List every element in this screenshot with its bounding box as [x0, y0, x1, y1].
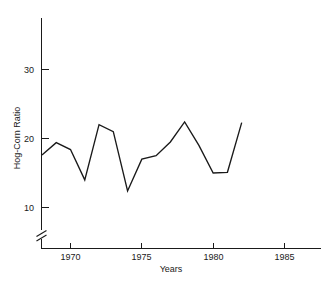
line-chart: 30 20 10 Hog-Corn Ratio 1970 1975 1980 1… [0, 0, 331, 285]
chart-container: 30 20 10 Hog-Corn Ratio 1970 1975 1980 1… [0, 0, 331, 285]
y-tick-label-10: 10 [24, 203, 34, 213]
x-tick-label-1985: 1985 [274, 252, 294, 262]
y-axis-title: Hog-Corn Ratio [12, 107, 22, 170]
x-tick-label-1975: 1975 [131, 252, 151, 262]
x-axis-title: Years [160, 264, 183, 274]
chart-background [0, 0, 331, 285]
y-tick-label-20: 20 [24, 134, 34, 144]
y-tick-label-30: 30 [24, 65, 34, 75]
x-tick-label-1980: 1980 [203, 252, 223, 262]
x-tick-label-1970: 1970 [60, 252, 80, 262]
